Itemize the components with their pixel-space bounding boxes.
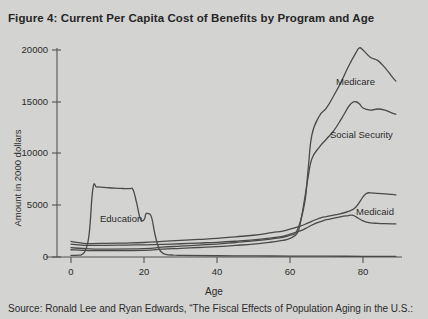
x-tick-label-60: 60 <box>285 266 296 277</box>
source-note: Source: Ronald Lee and Ryan Edwards, “Th… <box>8 303 413 314</box>
y-tick-label-20000: 20000 <box>22 44 48 55</box>
page-title: Figure 4: Current Per Capita Cost of Ben… <box>8 12 374 24</box>
y-axis-ticks: 0 5000 10000 15000 20000 <box>22 44 61 262</box>
y-tick-label-10000: 10000 <box>22 147 48 158</box>
y-tick-label-0: 0 <box>43 251 48 262</box>
y-axis-title: Amount in 2000 dollars <box>12 129 23 226</box>
series-path-social-security <box>71 102 396 251</box>
x-tick-label-20: 20 <box>139 266 150 277</box>
series-label-medicaid: Medicaid <box>356 206 394 217</box>
benefits-by-age-line-chart: Amount in 2000 dollars 0 5000 10000 1500… <box>0 30 428 285</box>
x-tick-label-40: 40 <box>212 266 223 277</box>
series-label-education: Education <box>100 213 142 224</box>
x-axis-ticks: 0 20 40 60 80 <box>68 257 368 277</box>
x-tick-label-80: 80 <box>358 266 369 277</box>
x-tick-label-0: 0 <box>68 266 73 277</box>
y-tick-label-15000: 15000 <box>22 96 48 107</box>
chart-canvas: Amount in 2000 dollars 0 5000 10000 1500… <box>0 30 428 285</box>
x-axis-title: Age <box>0 286 428 297</box>
series-label-medicare: Medicare <box>336 76 375 87</box>
y-tick-label-5000: 5000 <box>27 199 48 210</box>
series-label-social-security: Social Security <box>330 129 393 140</box>
